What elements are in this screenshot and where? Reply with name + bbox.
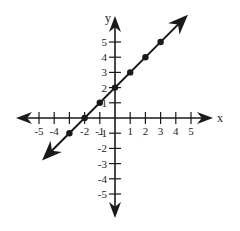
- y-tick-label: -1: [98, 127, 107, 139]
- y-tick-label: 2: [102, 82, 108, 94]
- data-point: [97, 100, 103, 106]
- y-tick-label: -5: [98, 188, 108, 200]
- y-tick-label: 4: [102, 51, 108, 63]
- y-tick-label: -4: [98, 173, 108, 185]
- x-tick-label: 1: [127, 125, 133, 137]
- data-point: [127, 69, 133, 75]
- x-tick-label: -4: [50, 125, 60, 137]
- y-tick-label: 5: [102, 36, 108, 48]
- x-tick-label: 3: [158, 125, 164, 137]
- y-tick-label: 3: [102, 66, 108, 78]
- y-tick-label: -2: [98, 142, 107, 154]
- data-point: [66, 130, 72, 136]
- x-tick-label: 4: [173, 125, 179, 137]
- y-tick-label: -3: [98, 158, 108, 170]
- y-axis-label: y: [105, 11, 111, 25]
- x-axis-label: x: [217, 111, 223, 125]
- x-tick-label: 5: [188, 125, 194, 137]
- x-tick-label: 2: [143, 125, 149, 137]
- data-point: [112, 84, 118, 90]
- data-point: [157, 39, 163, 45]
- x-tick-label: -5: [34, 125, 44, 137]
- coordinate-plane: -5-4-2-112345-5-4-3-2-112345 x y: [0, 0, 240, 231]
- x-tick-label: -2: [80, 125, 89, 137]
- axes: [16, 16, 213, 218]
- data-point: [81, 115, 87, 121]
- data-point: [142, 54, 148, 60]
